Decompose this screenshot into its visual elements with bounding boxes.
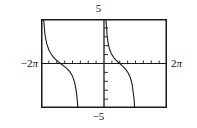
- y-axis-max-label: 5: [0, 3, 197, 14]
- plot-area: [41, 19, 167, 108]
- x-axis-min-coefficient: −2: [21, 57, 33, 69]
- plot-canvas: [41, 19, 167, 108]
- function-graph-figure: 5 −5 −2π 2π: [0, 0, 197, 128]
- x-axis-min-label: −2π: [8, 58, 38, 69]
- y-axis-min-label: −5: [0, 111, 197, 122]
- x-axis-min-pi-symbol: π: [32, 57, 38, 69]
- x-axis-max-pi-symbol: π: [177, 57, 183, 69]
- x-axis-max-label: 2π: [171, 58, 197, 69]
